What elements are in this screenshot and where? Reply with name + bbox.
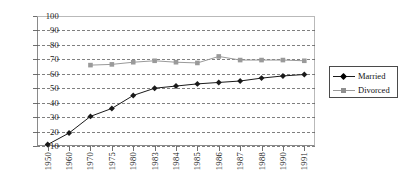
- data-point-marker: [195, 61, 200, 66]
- data-point-marker: [173, 83, 179, 89]
- married-swatch: [333, 71, 355, 81]
- x-tick-mark: [219, 146, 220, 151]
- x-tick-mark: [133, 146, 134, 151]
- y-tick-mark: [33, 146, 37, 147]
- x-tick-mark: [112, 146, 113, 151]
- series-layer: [37, 16, 315, 146]
- x-tick-mark: [90, 146, 91, 151]
- data-point-marker: [237, 78, 243, 84]
- x-tick-label: 1983: [150, 152, 160, 170]
- x-tick-mark: [176, 146, 177, 151]
- data-point-marker: [302, 58, 307, 63]
- data-point-marker: [280, 73, 286, 79]
- data-point-marker: [110, 62, 115, 67]
- x-tick-label: 1988: [257, 152, 267, 170]
- diamond-marker: [340, 72, 347, 79]
- data-point-marker: [216, 79, 222, 85]
- data-point-marker: [259, 75, 265, 81]
- x-tick-mark: [262, 146, 263, 151]
- x-tick-mark: [283, 146, 284, 151]
- legend-item-married: Married: [333, 69, 394, 83]
- x-tick-label: 1984: [171, 152, 181, 170]
- chart-legend: Married Divorced: [329, 66, 398, 98]
- x-tick-mark: [155, 146, 156, 151]
- data-point-marker: [152, 85, 158, 91]
- x-tick-label: 1991: [299, 152, 309, 170]
- x-tick-label: 1990: [278, 152, 288, 170]
- x-tick-mark: [240, 146, 241, 151]
- data-point-marker: [174, 60, 179, 65]
- data-point-marker: [109, 105, 115, 111]
- line-chart: 100908070605040302010 195019601970197519…: [0, 0, 402, 190]
- x-tick-label: 1987: [235, 152, 245, 170]
- x-tick-label: 1950: [43, 152, 53, 170]
- x-tick-label: 1960: [64, 152, 74, 170]
- x-tick-label: 1980: [128, 152, 138, 170]
- data-point-marker: [281, 58, 286, 63]
- data-point-marker: [194, 81, 200, 87]
- x-tick-label: 1970: [85, 152, 95, 170]
- data-point-marker: [259, 58, 264, 63]
- square-marker: [341, 88, 346, 93]
- x-tick-mark: [69, 146, 70, 151]
- data-point-marker: [301, 72, 307, 78]
- data-point-marker: [152, 58, 157, 63]
- x-tick-label: 1975: [107, 152, 117, 170]
- legend-label-divorced: Divorced: [355, 85, 390, 95]
- legend-item-divorced: Divorced: [333, 83, 394, 97]
- legend-label-married: Married: [355, 71, 385, 81]
- data-point-marker: [131, 60, 136, 65]
- data-point-marker: [130, 92, 136, 98]
- data-point-marker: [216, 54, 221, 59]
- data-point-marker: [238, 58, 243, 63]
- divorced-swatch: [333, 85, 355, 95]
- x-tick-label: 1986: [214, 152, 224, 170]
- x-tick-label: 1985: [192, 152, 202, 170]
- data-point-marker: [88, 63, 93, 68]
- x-tick-mark: [304, 146, 305, 151]
- x-tick-mark: [197, 146, 198, 151]
